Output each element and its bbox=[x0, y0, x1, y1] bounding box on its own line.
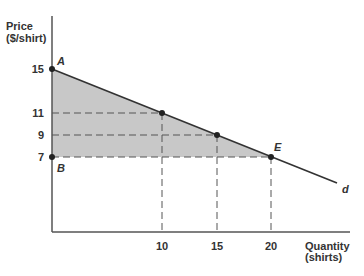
x-tick-10: 10 bbox=[156, 240, 168, 252]
y-axis-label-line2: ($/shirt) bbox=[6, 32, 47, 44]
point-e-marker bbox=[268, 154, 274, 160]
demand-chart: Price ($/shirt) Quantity (shirts) 15 11 … bbox=[0, 0, 364, 276]
point-10-11-marker bbox=[159, 110, 165, 116]
point-a-marker bbox=[49, 66, 55, 72]
point-b-marker bbox=[49, 154, 55, 160]
point-15-9-marker bbox=[214, 132, 220, 138]
y-tick-9: 9 bbox=[38, 129, 44, 141]
point-b-label: B bbox=[57, 162, 65, 174]
y-tick-15: 15 bbox=[32, 63, 44, 75]
point-a-label: A bbox=[56, 55, 65, 67]
y-tick-7: 7 bbox=[38, 151, 44, 163]
x-axis-label-line2: (shirts) bbox=[305, 251, 343, 263]
point-e-label: E bbox=[274, 141, 282, 153]
y-axis-label-line1: Price bbox=[6, 20, 33, 32]
y-tick-11: 11 bbox=[32, 107, 44, 119]
x-tick-20: 20 bbox=[265, 240, 277, 252]
curve-d-label: d bbox=[342, 183, 349, 195]
x-tick-15: 15 bbox=[211, 240, 223, 252]
